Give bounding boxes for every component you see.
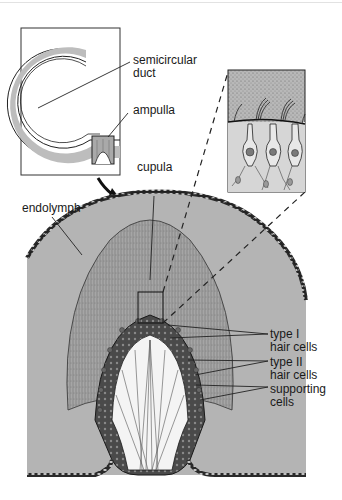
label-type-II-line2: hair cells bbox=[270, 369, 317, 382]
label-type-II-hair-cells: type II hair cells bbox=[270, 356, 317, 382]
label-semicircular-duct: semicircular duct bbox=[133, 54, 197, 80]
label-type-I-hair-cells: type I hair cells bbox=[270, 328, 317, 354]
label-supporting-line2: cells bbox=[270, 396, 326, 409]
label-semicircular-line2: duct bbox=[133, 67, 197, 80]
label-ampulla: ampulla bbox=[133, 104, 175, 117]
label-cupula: cupula bbox=[137, 161, 172, 174]
label-type-I-line2: hair cells bbox=[270, 341, 317, 354]
ampulla-section bbox=[27, 191, 306, 475]
label-supporting-cells: supporting cells bbox=[270, 383, 326, 409]
overview-inset bbox=[7, 28, 130, 175]
hair-cell-inset bbox=[228, 70, 305, 192]
label-endolymph: endolymph bbox=[22, 202, 81, 215]
